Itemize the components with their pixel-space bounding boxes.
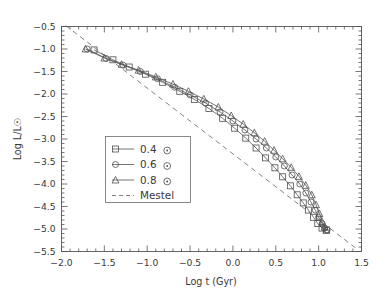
- x-axis-title: Log t (Gyr): [185, 276, 237, 287]
- cooling-curve-plot: −2.0−1.5−1.0−0.50.00.51.01.5 −0.5−1.0−1.…: [0, 0, 390, 297]
- y-axis-title: Log L/L☉: [12, 118, 23, 161]
- x-axis-tick-labels: −2.0−1.5−1.0−0.50.00.51.01.5: [50, 257, 369, 268]
- y-tick-label: −1.0: [33, 43, 55, 54]
- x-tick-label: −1.0: [136, 257, 158, 268]
- solar-mass-symbol-dot: [166, 150, 168, 152]
- svg-text:Log L/L☉: Log L/L☉: [12, 118, 23, 161]
- solar-mass-symbol-dot: [166, 181, 168, 183]
- y-axis-tick-labels: −0.5−1.0−1.5−2.0−2.5−3.0−3.5−4.0−4.5−5.0…: [33, 21, 55, 257]
- chart-legend: 0.40.60.8Mestel: [106, 137, 191, 203]
- chart-figure: −2.0−1.5−1.0−0.50.00.51.01.5 −0.5−1.0−1.…: [0, 0, 390, 297]
- y-tick-label: −2.5: [33, 111, 55, 122]
- x-tick-label: 1.5: [354, 257, 369, 268]
- solar-mass-symbol-dot: [166, 165, 168, 167]
- legend-label: 0.8: [140, 174, 157, 186]
- y-tick-label: −4.5: [33, 201, 55, 212]
- x-tick-label: 1.0: [311, 257, 326, 268]
- legend-label: 0.4: [140, 143, 157, 155]
- legend-label: 0.6: [140, 158, 157, 170]
- x-tick-label: −2.0: [50, 257, 72, 268]
- x-tick-label: 0.5: [268, 257, 283, 268]
- legend-label: Mestel: [140, 189, 174, 201]
- x-tick-label: −0.5: [179, 257, 201, 268]
- x-tick-label: 0.0: [226, 257, 241, 268]
- y-tick-label: −1.5: [33, 66, 55, 77]
- y-tick-label: −2.0: [33, 88, 55, 99]
- y-tick-label: −4.0: [33, 178, 55, 189]
- x-tick-label: −1.5: [93, 257, 115, 268]
- y-tick-label: −5.0: [33, 223, 55, 234]
- y-tick-label: −0.5: [33, 21, 55, 32]
- y-tick-label: −5.5: [33, 246, 55, 257]
- y-tick-label: −3.5: [33, 156, 55, 167]
- y-tick-label: −3.0: [33, 133, 55, 144]
